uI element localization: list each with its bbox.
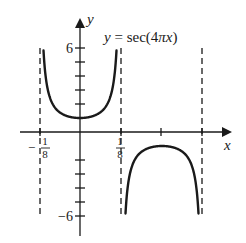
x-axis-arrow-icon: [222, 127, 232, 137]
equation-label: y = sec(4πx): [102, 29, 177, 46]
y-tick-label-6: 6: [66, 41, 73, 56]
svg-text:8: 8: [117, 148, 123, 160]
x-tick-label-neg-eighth: − 1 8: [28, 135, 50, 160]
x-axis: [20, 127, 232, 137]
chart: y x y = sec(4πx) 6 −6 − 1 8 1 8: [0, 0, 246, 243]
y-axis-arrow-icon: [75, 18, 85, 28]
branch-lower: [126, 146, 199, 213]
svg-text:8: 8: [42, 148, 48, 160]
y-axis-label: y: [85, 11, 94, 27]
y-tick-label-neg-6: −6: [58, 209, 73, 224]
x-tick-label-eighth: 1 8: [116, 135, 125, 160]
svg-text:1: 1: [117, 135, 123, 147]
svg-text:1: 1: [42, 135, 48, 147]
svg-text:−: −: [28, 140, 35, 155]
x-axis-label: x: [223, 137, 231, 153]
y-axis: [75, 18, 85, 236]
